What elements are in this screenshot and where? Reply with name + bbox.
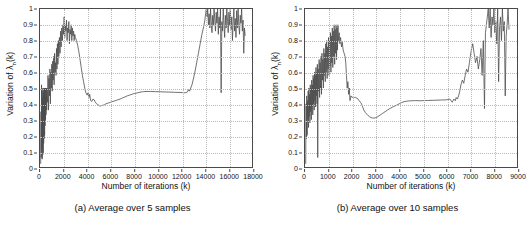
x-tick-label: 4000: [391, 173, 407, 180]
y-tick-label: 0: [294, 165, 298, 172]
gridline-horizontal: [305, 73, 517, 74]
x-tick-mark: [328, 169, 329, 172]
series-line: [41, 9, 245, 164]
x-tick-label: 7000: [463, 173, 479, 180]
gridline-horizontal: [305, 137, 517, 138]
y-tick-label: 0.5: [23, 85, 33, 92]
x-tick-mark: [494, 169, 495, 172]
x-tick-label: 18000: [243, 173, 262, 180]
gridline-vertical: [88, 9, 89, 167]
x-tick-mark: [182, 169, 183, 172]
y-tick-label: 0.1: [23, 149, 33, 156]
x-axis-label-a: Number of iterations (k): [39, 181, 253, 191]
x-tick-mark: [304, 169, 305, 172]
y-tick-mark: [34, 24, 37, 25]
y-axis-ticks-a: 00.10.20.30.40.50.60.70.80.91: [16, 8, 36, 168]
x-axis-label-b: Number of iterations (k): [304, 181, 518, 191]
y-tick-mark: [299, 168, 302, 169]
y-tick-mark: [299, 24, 302, 25]
y-tick-label: 0.3: [288, 117, 298, 124]
y-tick-label: 0.2: [23, 133, 33, 140]
plot-frame-a: [39, 8, 253, 168]
figure-container: Variation of λn(k) 00.10.20.30.40.50.60.…: [0, 0, 531, 228]
gridline-vertical: [206, 9, 207, 167]
gridline-horizontal: [305, 57, 517, 58]
gridline-horizontal: [305, 25, 517, 26]
y-tick-label: 0.3: [23, 117, 33, 124]
gridline-vertical: [353, 9, 354, 167]
x-tick-mark: [447, 169, 448, 172]
x-tick-label: 16000: [219, 173, 238, 180]
y-tick-label: 0.1: [288, 149, 298, 156]
plot-area-b: Variation of λn(k) 00.10.20.30.40.50.60.…: [265, 0, 530, 196]
y-tick-label: 0: [29, 165, 33, 172]
gridline-vertical: [159, 9, 160, 167]
x-tick-label: 0: [302, 173, 306, 180]
x-tick-mark: [158, 169, 159, 172]
x-tick-label: 1000: [320, 173, 336, 180]
x-tick-label: 6000: [103, 173, 119, 180]
x-tick-label: 4000: [79, 173, 95, 180]
x-tick-label: 12000: [172, 173, 191, 180]
chart-panel-b: Variation of λn(k) 00.10.20.30.40.50.60.…: [265, 0, 530, 228]
y-tick-label: 0.8: [288, 37, 298, 44]
y-tick-label: 0.2: [288, 133, 298, 140]
y-tick-mark: [299, 72, 302, 73]
data-curve-b: [305, 9, 517, 167]
x-tick-label: 10000: [148, 173, 167, 180]
plot-area-a: Variation of λn(k) 00.10.20.30.40.50.60.…: [0, 0, 265, 196]
gridline-horizontal: [305, 105, 517, 106]
chart-panel-a: Variation of λn(k) 00.10.20.30.40.50.60.…: [0, 0, 265, 228]
y-tick-mark: [299, 88, 302, 89]
x-tick-mark: [375, 169, 376, 172]
gridline-horizontal: [40, 153, 252, 154]
gridline-horizontal: [40, 137, 252, 138]
gridline-horizontal: [305, 153, 517, 154]
y-axis-ticks-b: 00.10.20.30.40.50.60.70.80.91: [281, 8, 301, 168]
plot-frame-b: [304, 8, 518, 168]
x-tick-label: 2000: [55, 173, 71, 180]
y-tick-mark: [299, 136, 302, 137]
x-tick-label: 8000: [486, 173, 502, 180]
y-tick-mark: [299, 56, 302, 57]
gridline-horizontal: [40, 25, 252, 26]
y-tick-label: 0.4: [288, 101, 298, 108]
gridline-horizontal: [40, 73, 252, 74]
gridline-horizontal: [40, 41, 252, 42]
x-tick-mark: [229, 169, 230, 172]
x-tick-label: 2000: [344, 173, 360, 180]
gridline-horizontal: [40, 57, 252, 58]
y-tick-mark: [34, 136, 37, 137]
y-tick-label: 1: [29, 5, 33, 12]
y-tick-mark: [34, 120, 37, 121]
x-tick-mark: [110, 169, 111, 172]
y-tick-mark: [34, 104, 37, 105]
y-tick-mark: [299, 40, 302, 41]
gridline-vertical: [376, 9, 377, 167]
y-tick-label: 0.6: [288, 69, 298, 76]
y-tick-mark: [34, 72, 37, 73]
series-line: [306, 9, 509, 164]
x-tick-label: 3000: [368, 173, 384, 180]
gridline-vertical: [495, 9, 496, 167]
gridline-vertical: [471, 9, 472, 167]
x-tick-mark: [423, 169, 424, 172]
gridline-vertical: [135, 9, 136, 167]
x-tick-mark: [470, 169, 471, 172]
y-axis-label-suffix-a: (k): [5, 52, 15, 62]
x-tick-label: 14000: [196, 173, 215, 180]
y-axis-label-suffix-b: (k): [270, 52, 280, 62]
x-tick-mark: [253, 169, 254, 172]
panel-caption-b: (b) Average over 10 samples: [265, 202, 530, 213]
x-tick-label: 0: [37, 173, 41, 180]
x-axis-ticks-a: 0200040006000800010000120001400016000180…: [39, 168, 253, 182]
gridline-horizontal: [305, 89, 517, 90]
y-tick-mark: [299, 152, 302, 153]
gridline-horizontal: [40, 121, 252, 122]
gridline-vertical: [448, 9, 449, 167]
gridline-vertical: [64, 9, 65, 167]
x-tick-label: 9000: [510, 173, 526, 180]
y-tick-mark: [299, 8, 302, 9]
y-axis-label-text-b: Variation of λ: [270, 66, 280, 116]
y-tick-label: 1: [294, 5, 298, 12]
